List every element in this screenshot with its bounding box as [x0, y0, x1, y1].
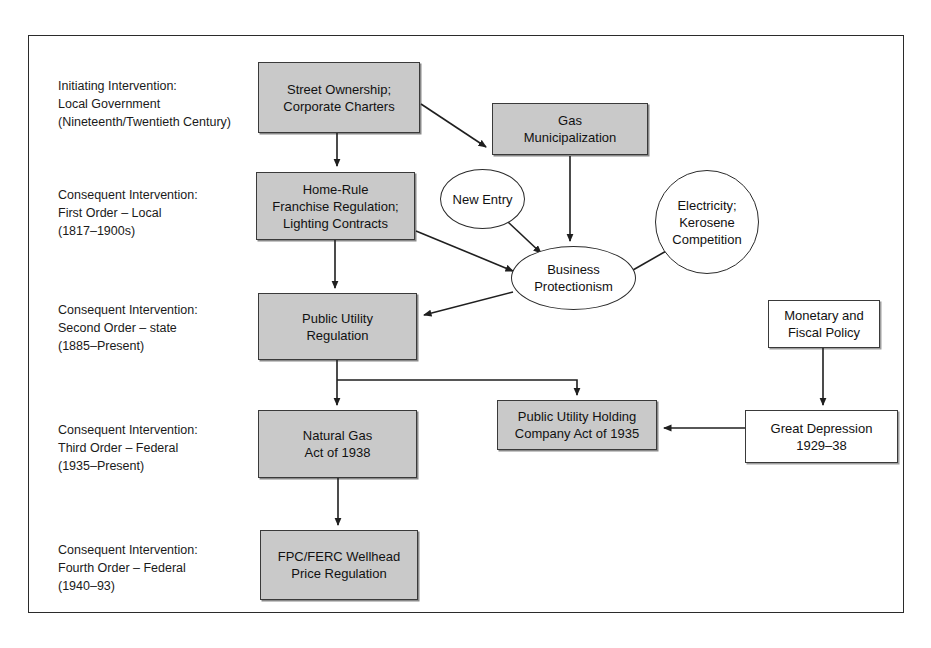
node-gas-municipalization: Gas Municipalization — [492, 103, 648, 155]
node-new-entry: New Entry — [440, 169, 525, 229]
stage-label-fourth-order: Consequent Intervention: Fourth Order – … — [58, 541, 258, 595]
stage-label-third-order: Consequent Intervention: Third Order – F… — [58, 421, 258, 475]
stage-label-initiating: Initiating Intervention: Local Governmen… — [58, 77, 273, 131]
node-great-depression: Great Depression 1929–38 — [745, 410, 898, 463]
node-home-rule-franchise-regulation: Home-Rule Franchise Regulation; Lighting… — [256, 172, 415, 240]
figure-canvas: Initiating Intervention: Local Governmen… — [0, 0, 931, 648]
node-fpc-ferc-wellhead-price-regulation: FPC/FERC Wellhead Price Regulation — [260, 530, 418, 600]
node-public-utility-holding-company-act-1935: Public Utility Holding Company Act of 19… — [497, 400, 657, 450]
node-natural-gas-act-1938: Natural Gas Act of 1938 — [258, 410, 417, 478]
node-public-utility-regulation: Public Utility Regulation — [258, 293, 417, 360]
node-street-ownership: Street Ownership; Corporate Charters — [258, 62, 420, 133]
node-business-protectionism: Business Protectionism — [511, 246, 636, 310]
node-monetary-and-fiscal-policy: Monetary and Fiscal Policy — [768, 300, 880, 348]
stage-label-first-order: Consequent Intervention: First Order – L… — [58, 186, 258, 240]
stage-label-second-order: Consequent Intervention: Second Order – … — [58, 301, 258, 355]
node-electricity-kerosene-competition: Electricity; Kerosene Competition — [655, 170, 759, 274]
